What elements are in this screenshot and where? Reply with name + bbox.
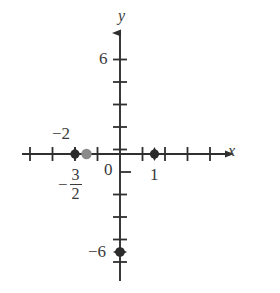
x-tick-label-1: 1 [150, 166, 159, 183]
axes-svg [0, 0, 280, 293]
x-axis-label: x [228, 143, 235, 159]
data-point-neg-six [113, 247, 127, 257]
y-tick-label-neg6: −6 [88, 243, 106, 260]
y-tick-label-6: 6 [99, 50, 108, 67]
origin-label: 0 [104, 161, 113, 178]
point-label-neg2: −2 [52, 125, 70, 142]
fraction-numerator: 3 [71, 167, 81, 183]
fraction-sign: − [58, 176, 68, 193]
y-axis-label: y [118, 8, 125, 24]
data-point-neg-three-halves [81, 149, 91, 159]
data-point-one [150, 147, 159, 161]
data-point-neg2 [70, 147, 79, 161]
coordinate-plane-figure: x y 0 6 −6 −2 1 − 3 2 [0, 0, 280, 293]
fraction-stack: 3 2 [70, 167, 82, 202]
fraction-denominator: 2 [71, 186, 81, 202]
y-axis-ticks [113, 60, 131, 263]
point-label-neg-three-halves: − 3 2 [58, 167, 82, 202]
